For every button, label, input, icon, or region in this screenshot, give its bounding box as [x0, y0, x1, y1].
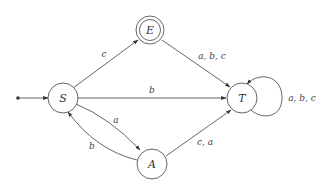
state-label-a: A [147, 158, 156, 171]
edge-a-to-s: b [68, 112, 137, 160]
state-t: T [227, 83, 257, 113]
edge-label-a-t: c, a [197, 137, 213, 147]
edge-label-s-a: a [113, 115, 118, 125]
edge-a-to-t: c, a [166, 110, 231, 156]
edge-e-to-t: a, b, c [162, 40, 230, 87]
edge-label-e-t: a, b, c [198, 51, 226, 61]
state-label-e: E [145, 24, 154, 37]
edge-s-to-e: c [73, 40, 138, 88]
state-a: A [137, 149, 167, 179]
edge-label-a-s: b [89, 141, 95, 151]
edge-label-t-t: a, b, c [288, 93, 316, 103]
edge-label-s-t: b [149, 85, 155, 95]
state-diagram: c b a b a, b, c c, a a, b, c S E [0, 0, 320, 194]
state-label-s: S [59, 92, 67, 105]
initial-arrow [16, 96, 48, 100]
state-e: E [136, 16, 164, 44]
edge-s-to-a: a [76, 104, 140, 150]
edge-s-to-t: b [78, 85, 226, 98]
state-s: S [48, 83, 78, 113]
edge-label-s-e: c [101, 49, 106, 59]
